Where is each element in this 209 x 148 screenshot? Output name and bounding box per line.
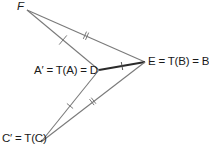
tick-mark-d-cprime — [67, 104, 73, 109]
label-c-prime: C′ = T(C) — [2, 133, 47, 145]
label-d: A′ = T(A) = D — [34, 65, 98, 77]
tick-mark-d-e — [121, 62, 122, 70]
label-f: F — [17, 1, 24, 13]
reflection-diagram: F A′ = T(A) = D E = T(B) = B′ C′ = T(C) — [0, 0, 209, 148]
segment-f-e — [27, 10, 145, 62]
tick-mark-f-d — [59, 35, 67, 44]
label-e: E = T(B) = B′ — [148, 56, 209, 68]
diagram-lines — [0, 0, 209, 148]
